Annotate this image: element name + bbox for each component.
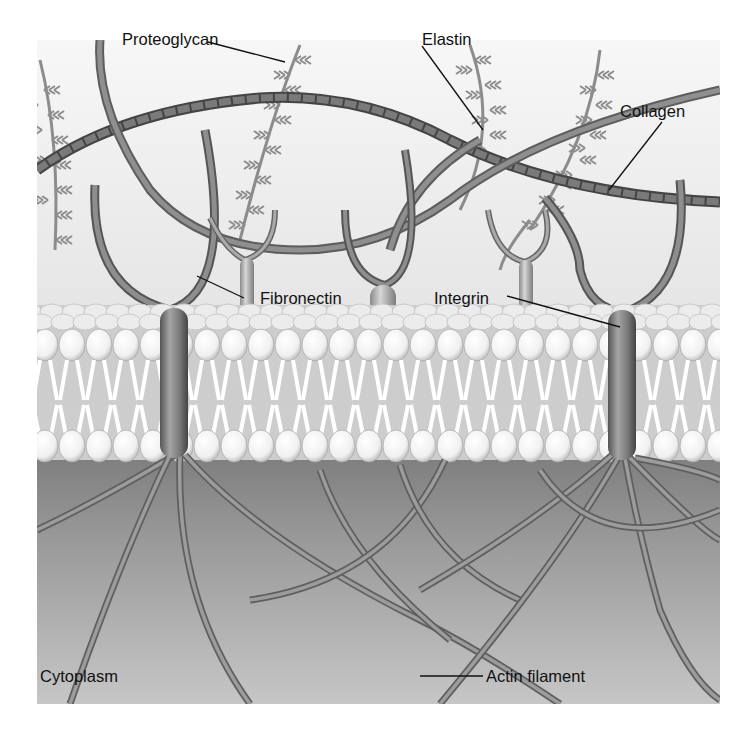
cytoplasm-region [37,455,720,704]
label-fibronectin: Fibronectin [260,290,342,307]
label-actin-filament: Actin filament [486,668,585,685]
diagram-canvas: Proteoglycan Elastin Collagen Fibronecti… [0,0,753,736]
label-proteoglycan: Proteoglycan [122,31,218,48]
label-collagen: Collagen [620,103,685,120]
label-cytoplasm: Cytoplasm [40,668,118,685]
integrin [608,310,636,460]
integrin [160,308,188,458]
label-elastin: Elastin [422,31,472,48]
label-integrin: Integrin [434,290,489,307]
